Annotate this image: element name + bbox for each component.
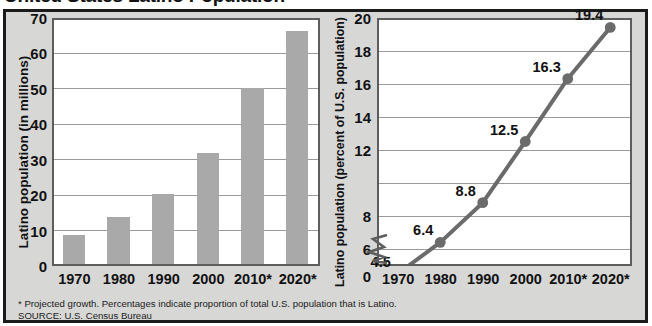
line-chart-marker	[477, 197, 488, 208]
line-chart-x-labels: 19701980199020002010*2020*	[377, 271, 632, 291]
line-chart-marker	[520, 136, 531, 147]
bar-chart-gridline	[54, 53, 318, 54]
footnote-source: SOURCE: U.S. Census Bureau	[18, 310, 458, 322]
line-chart-marker	[435, 237, 446, 248]
line-chart-point-label: 8.8	[456, 183, 476, 199]
bar-2020p	[286, 31, 308, 264]
figure-panel: Latino population (in millions) 01020304…	[3, 9, 648, 323]
line-chart-y-tick-label: 20	[354, 10, 371, 27]
bar-chart-x-label: 2020*	[279, 271, 317, 287]
figure-panel-inner: Latino population (in millions) 01020304…	[6, 12, 645, 320]
bar-chart-x-labels: 19701980199020002010*2020*	[52, 271, 320, 291]
line-chart-point-label: 19.4	[575, 7, 603, 23]
bar-chart-y-tick-label: 70	[30, 10, 47, 27]
bar-chart-gridline	[54, 159, 318, 160]
bar-chart-y-tick-label: 40	[30, 116, 47, 133]
bar-chart-x-label: 1990	[148, 271, 180, 287]
bar-chart-gridline	[54, 195, 318, 196]
bar-chart-y-tick-label: 50	[30, 80, 47, 97]
line-chart-x-label: 2000	[510, 271, 542, 287]
line-chart: Latino population (percent of U.S. popul…	[329, 18, 639, 286]
line-chart-x-label: 2020*	[592, 271, 630, 287]
page-title: United States Latino Population	[4, 0, 285, 7]
bar-chart-y-tick-label: 30	[30, 151, 47, 168]
bar-1970	[63, 235, 85, 264]
line-chart-x-label: 1990	[467, 271, 499, 287]
line-chart-x-label: 2010*	[549, 271, 587, 287]
bar-chart-y-ticks: 010203040506070	[12, 18, 47, 266]
bar-chart-y-tick-label: 20	[30, 187, 47, 204]
figure-footnote: * Projected growth. Percentages indicate…	[18, 298, 458, 322]
bar-chart-x-label: 2010*	[234, 271, 272, 287]
bar-chart-x-label: 1970	[58, 271, 90, 287]
line-chart-y-tick-label: 0	[363, 268, 371, 285]
bar-chart-y-tick-label: 10	[30, 222, 47, 239]
line-chart-x-label: 1970	[382, 271, 414, 287]
line-chart-point-label: 12.5	[490, 122, 518, 138]
line-chart-point-label: 16.3	[533, 59, 561, 75]
line-chart-y-tick-label: 14	[354, 109, 371, 126]
figure-title-strip: United States Latino Population	[0, 0, 652, 9]
bar-chart-gridline	[54, 230, 318, 231]
line-chart-y-tick-label: 8	[363, 208, 371, 225]
line-chart-y-tick-label: 12	[354, 142, 371, 159]
bar-chart-plot-area	[52, 18, 320, 266]
line-chart-x-label: 1980	[425, 271, 457, 287]
line-chart-y-ticks: 0681214161820	[329, 18, 371, 266]
bar-1980	[107, 217, 129, 264]
y-axis-break-icon	[364, 234, 390, 264]
bar-chart-x-label: 2000	[192, 271, 224, 287]
footnote-projection-note: * Projected growth. Percentages indicate…	[18, 298, 458, 310]
bar-chart-y-tick-label: 0	[39, 258, 47, 275]
line-chart-y-tick-label: 16	[354, 76, 371, 93]
line-chart-point-label: 6.4	[413, 222, 433, 238]
line-chart-y-tick-label: 18	[354, 43, 371, 60]
line-chart-marker	[562, 73, 573, 84]
bar-chart-gridline	[54, 124, 318, 125]
line-chart-marker	[605, 22, 616, 33]
bar-chart-gridline	[54, 88, 318, 89]
figure-root: United States Latino Population Latino p…	[0, 0, 652, 326]
bar-chart: Latino population (in millions) 01020304…	[12, 18, 324, 286]
bar-2000	[197, 153, 219, 264]
bar-chart-x-label: 1980	[103, 271, 135, 287]
bar-1990	[152, 194, 174, 264]
bar-chart-y-tick-label: 60	[30, 45, 47, 62]
bar-2010p	[241, 88, 263, 264]
